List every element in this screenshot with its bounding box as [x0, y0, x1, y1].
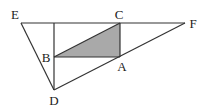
diagram-svg [0, 0, 202, 107]
label-c: C [115, 8, 124, 21]
label-a: A [117, 60, 126, 73]
label-d: D [49, 94, 58, 107]
label-f: F [189, 17, 196, 30]
label-b: B [42, 51, 51, 64]
label-e: E [11, 8, 19, 21]
geometry-diagram: E C F B A D [0, 0, 202, 107]
